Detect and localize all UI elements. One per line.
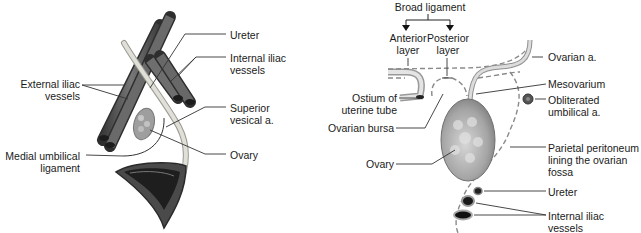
arrow-down-icon (446, 25, 454, 31)
label-ureter: Ureter (230, 29, 259, 41)
label-ostium-line2: uterine tube (320, 104, 397, 116)
left-illustration (82, 17, 226, 228)
label-obliterated-umbilical-line1: Obliterated (548, 94, 599, 106)
label-internal-iliac-line2: vessels (230, 64, 265, 76)
label-posterior-layer-line1: Posterior (420, 32, 476, 44)
label-broad-ligament: Broad ligament (385, 1, 475, 13)
label-superior-vesical-line1: Superior (230, 102, 270, 114)
label-ovarian-artery: Ovarian a. (548, 51, 596, 63)
label-mesovarium: Mesovarium (548, 78, 605, 90)
internal-iliac-vessels (150, 56, 195, 105)
label-parietal-peritoneum-line2: lining the ovarian (548, 154, 627, 166)
label-ostium-line1: Ostium of (320, 92, 397, 104)
label-superior-vesical-line2: vesical a. (230, 114, 274, 126)
broad-ligament-bracket (406, 14, 450, 26)
label-medial-umbilical-line1: Medial umbilical (0, 150, 80, 162)
label-ovary-left: Ovary (230, 149, 258, 161)
label-external-iliac-line1: External iliac (0, 78, 80, 90)
label-external-iliac-line2: vessels (0, 90, 80, 102)
label-posterior-layer-line2: layer (420, 44, 476, 56)
label-ovary-right: Ovary (320, 158, 394, 170)
label-medial-umbilical-line2: ligament (0, 162, 80, 174)
label-ovarian-bursa: Ovarian bursa (300, 122, 394, 134)
diagram-canvas (0, 0, 641, 233)
label-parietal-peritoneum-line1: Parietal peritoneum (548, 142, 639, 154)
label-parietal-peritoneum-line3: fossa (548, 166, 573, 178)
arrow-down-icon (402, 25, 410, 31)
label-ureter-right: Ureter (548, 186, 577, 198)
bladder-shape (116, 163, 186, 228)
label-obliterated-umbilical-line2: umbilical a. (548, 106, 601, 118)
label-internal-iliac-right-line2: vessels (548, 222, 583, 233)
label-internal-iliac-right-line1: Internal iliac (548, 210, 604, 222)
label-internal-iliac-line1: Internal iliac (230, 52, 286, 64)
